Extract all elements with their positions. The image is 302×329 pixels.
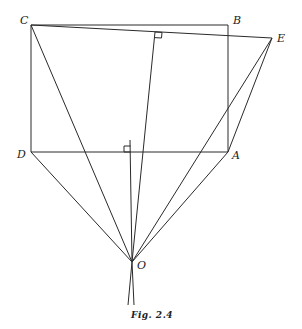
label-O: O bbox=[137, 259, 146, 272]
geometry-figure: C B E D A O Fig. 2.4 bbox=[0, 0, 302, 329]
perpendicular-to-CE bbox=[132, 32, 155, 262]
right-angle-mark-CE bbox=[155, 32, 163, 38]
label-C: C bbox=[20, 14, 29, 27]
label-E: E bbox=[276, 32, 285, 45]
label-B: B bbox=[232, 14, 241, 27]
right-angle-mark-DA bbox=[124, 146, 131, 152]
extension-below-O-left bbox=[128, 262, 132, 305]
segment-OA bbox=[132, 152, 228, 262]
segment-EA bbox=[228, 38, 272, 152]
segment-OC bbox=[31, 25, 132, 262]
segment-OE bbox=[132, 38, 272, 262]
extension-below-O-right bbox=[132, 262, 134, 305]
label-A: A bbox=[231, 149, 240, 162]
perpendicular-to-DA bbox=[130, 140, 132, 262]
figure-caption: Fig. 2.4 bbox=[130, 310, 173, 320]
segment-OD bbox=[31, 152, 132, 262]
label-D: D bbox=[16, 148, 26, 161]
